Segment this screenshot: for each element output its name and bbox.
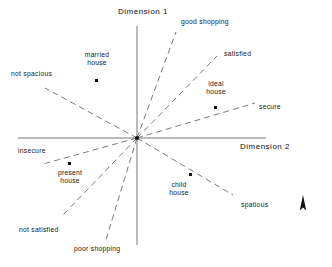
point-label-married-house-line1: married xyxy=(79,51,115,59)
vector-label-satisfied: satisfied xyxy=(224,50,251,59)
point-label-child-house-line2: house xyxy=(163,189,195,197)
x-axis-title: Dimension 2 xyxy=(240,143,290,152)
point-marker-married-house xyxy=(95,79,98,82)
north-arrow-icon xyxy=(300,195,306,211)
vector-poor-shopping xyxy=(105,138,137,243)
point-label-present-house: present house xyxy=(52,169,88,185)
point-label-child-house: child house xyxy=(163,181,195,197)
vector-label-not-spacious: not spacious xyxy=(11,70,52,79)
point-marker-present-house xyxy=(68,162,71,165)
vector-label-insecure: insecure xyxy=(18,147,46,156)
vector-label-secure: secure xyxy=(259,103,281,112)
point-label-married-house: married house xyxy=(79,51,115,67)
vector-label-spatious: spatious xyxy=(241,201,268,210)
point-label-present-house-line2: house xyxy=(52,177,88,185)
vector-label-not-satisfied: not satisfied xyxy=(19,226,59,235)
point-marker-ideal-house xyxy=(214,106,217,109)
point-label-ideal-house-line1: ideal xyxy=(200,80,232,88)
point-label-ideal-house: ideal house xyxy=(200,80,232,96)
point-label-child-house-line1: child xyxy=(163,181,195,189)
point-marker-child-house xyxy=(189,173,192,176)
origin-marker xyxy=(135,136,139,140)
y-axis-title: Dimension 1 xyxy=(118,8,168,17)
vector-insecure xyxy=(43,138,137,164)
attribute-vectors xyxy=(43,32,255,243)
point-label-married-house-line2: house xyxy=(79,59,115,67)
vector-label-good-shopping: good shopping xyxy=(181,18,229,27)
vector-not-spacious xyxy=(45,88,137,138)
vector-good-shopping xyxy=(137,32,176,138)
point-label-ideal-house-line2: house xyxy=(200,88,232,96)
vector-label-poor-shopping: poor shopping xyxy=(74,245,120,254)
perceptual-map-figure: Dimension 1 Dimension 2 good shopping sa… xyxy=(0,0,332,267)
point-label-present-house-line1: present xyxy=(52,169,88,177)
